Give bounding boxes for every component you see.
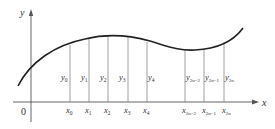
y-label-2n-2: y2n−2 <box>185 72 201 83</box>
partition-diagram: y x 0 y0 y1 y2 y3 y4 y2n−2 y2n−1 y2n x0 … <box>0 0 275 129</box>
x-label-3: x3 <box>123 105 131 116</box>
x-label-2: x2 <box>103 105 111 116</box>
y-label-2n-1: y2n−1 <box>204 72 220 83</box>
origin-label: 0 <box>21 106 26 117</box>
y-label-2: y2 <box>99 72 107 83</box>
y-label-0: y0 <box>60 72 68 83</box>
x-label-4: x4 <box>142 105 150 116</box>
y-label-4: y4 <box>147 72 155 83</box>
x-label-0: x0 <box>65 105 73 116</box>
x-axis-label: x <box>261 97 267 108</box>
y-label-3: y3 <box>118 72 126 83</box>
x-label-1: x1 <box>84 105 92 116</box>
y-axis-label: y <box>19 7 25 18</box>
ordinates <box>70 36 224 102</box>
y-axis-arrow-icon <box>29 9 33 16</box>
x-label-2n-1: x2n−1 <box>201 105 217 116</box>
x-label-2n-2: x2n−2 <box>181 105 197 116</box>
x-axis-arrow-icon <box>252 100 259 105</box>
y-label-1: y1 <box>80 72 88 83</box>
x-label-2n: x2n <box>221 105 231 116</box>
y-label-2n: y2n <box>224 72 234 83</box>
